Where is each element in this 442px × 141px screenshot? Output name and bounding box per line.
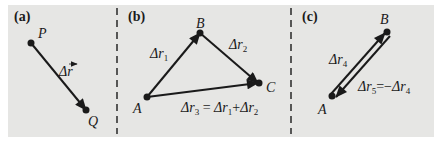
panel-c-label: (c) (302, 9, 318, 25)
point-q-dot (83, 107, 90, 114)
point-b-label: B (196, 16, 205, 31)
point-c-label: C (266, 80, 276, 95)
point-q-label: Q (88, 114, 98, 129)
vector-delta-r-label: Δr (58, 64, 73, 79)
point-a-label: A (132, 101, 142, 116)
point-p-label: P (37, 26, 47, 41)
figure-canvas: (a) P Q Δr (b) B A C Δr1 Δr2 Δr3 = Δr1+Δ… (0, 0, 442, 141)
point-p-dot (28, 40, 35, 47)
point-c-dot (256, 80, 263, 87)
point-a-dot-c (329, 93, 336, 100)
vector-negation-equation: Δr5=−Δr4 (357, 79, 411, 96)
point-b-label-c: B (380, 12, 389, 27)
point-a-label-c: A (317, 102, 327, 117)
point-b-dot-c (384, 29, 391, 36)
point-a-dot (144, 94, 151, 101)
panel-a-label: (a) (14, 9, 31, 25)
vector-diagram-figure: (a) P Q Δr (b) B A C Δr1 Δr2 Δr3 = Δr1+Δ… (0, 0, 442, 141)
panel-b-label: (b) (128, 9, 145, 25)
